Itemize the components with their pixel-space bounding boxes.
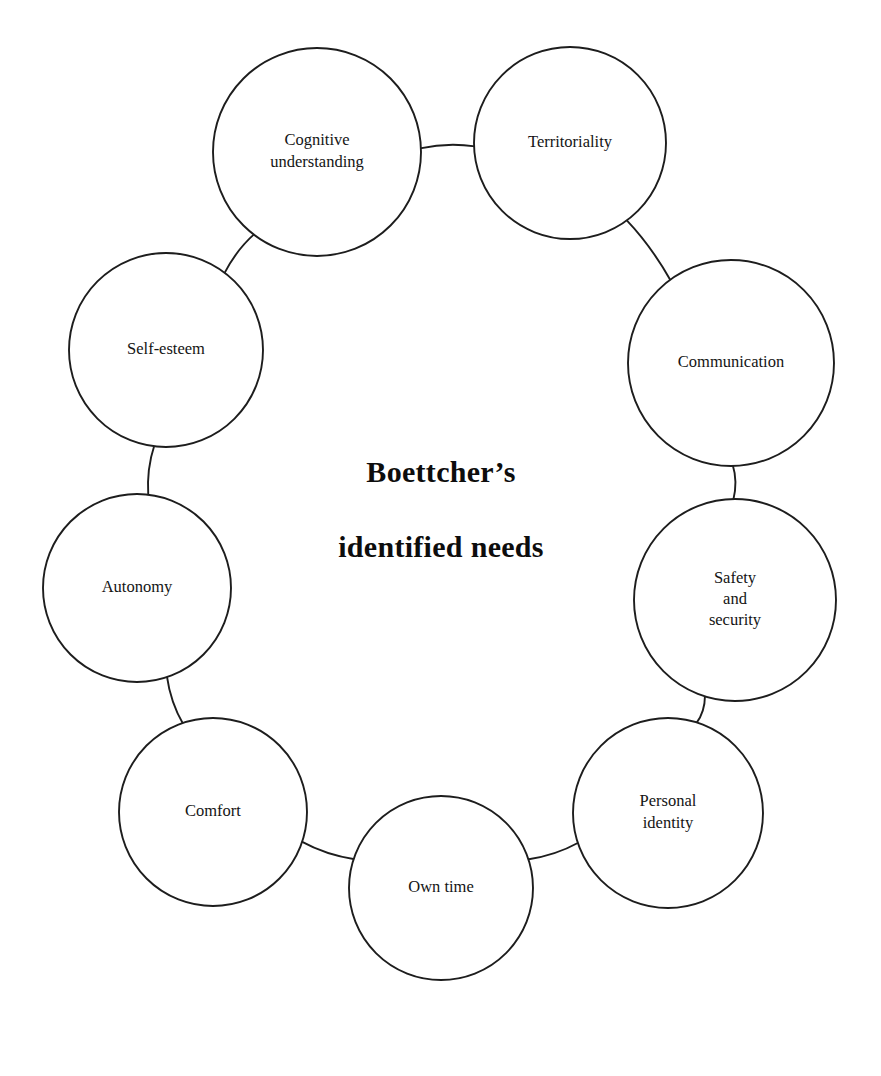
node-label-comfort: Comfort [185, 801, 241, 820]
need-node-cognitive-understanding[interactable]: Cognitiveunderstanding [213, 48, 421, 256]
node-label-self-esteem: Self-esteem [127, 339, 205, 358]
need-node-territoriality[interactable]: Territoriality [474, 47, 666, 239]
node-label-own-time: Own time [408, 877, 474, 896]
node-label-line: Personal [640, 791, 697, 810]
need-node-autonomy[interactable]: Autonomy [43, 494, 231, 682]
diagram-canvas: CognitiveunderstandingTerritorialityComm… [0, 0, 881, 1076]
need-node-self-esteem[interactable]: Self-esteem [69, 253, 263, 447]
node-label-line: Cognitive [284, 130, 349, 149]
need-node-own-time[interactable]: Own time [349, 796, 533, 980]
node-label-territoriality: Territoriality [528, 132, 613, 151]
center-title-line-1: Boettcher’s [366, 455, 515, 488]
node-label-line: understanding [270, 151, 363, 170]
node-label-autonomy: Autonomy [102, 577, 173, 596]
node-label-communication: Communication [678, 352, 784, 371]
need-node-comfort[interactable]: Comfort [119, 718, 307, 906]
need-node-safety-and-security[interactable]: Safetyandsecurity [634, 499, 836, 701]
needs-circle-diagram: CognitiveunderstandingTerritorialityComm… [0, 0, 881, 1076]
node-label-line: Territoriality [528, 132, 613, 151]
node-label-line: Safety [714, 568, 757, 587]
need-node-communication[interactable]: Communication [628, 260, 834, 466]
node-label-line: identity [643, 812, 694, 831]
need-node-personal-identity[interactable]: Personalidentity [573, 718, 763, 908]
node-label-line: Own time [408, 877, 474, 896]
center-title-line-2: identified needs [338, 530, 544, 563]
node-label-line: Autonomy [102, 577, 173, 596]
node-label-line: Comfort [185, 801, 241, 820]
node-label-line: security [709, 610, 762, 629]
node-label-line: Communication [678, 352, 784, 371]
node-label-line: and [723, 589, 748, 608]
node-label-line: Self-esteem [127, 339, 205, 358]
